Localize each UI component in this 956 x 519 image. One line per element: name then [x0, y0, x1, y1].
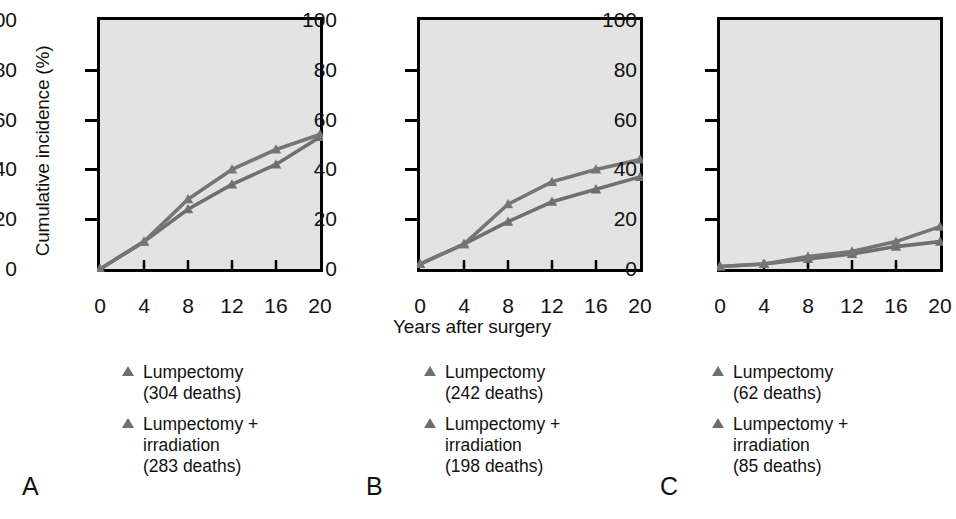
x-tick-label: 20 [300, 295, 340, 316]
y-tick-mark [705, 69, 717, 72]
panel-c: 020406080100048121620 [642, 0, 942, 300]
legend-panel-b: Lumpectomy(242 deaths)Lumpectomy +irradi… [424, 362, 654, 487]
plot-area-a: 020406080100048121620 [97, 17, 323, 272]
y-tick-label: 80 [577, 59, 637, 80]
y-tick-label: 0 [577, 258, 637, 279]
legend-entry[interactable]: Lumpectomy +irradiation(198 deaths) [424, 414, 654, 478]
y-tick-mark [85, 168, 97, 171]
y-tick-label: 100 [277, 9, 337, 30]
legend-label-line: (62 deaths) [733, 383, 942, 404]
legend-entry[interactable]: Lumpectomy(304 deaths) [122, 362, 352, 405]
plot-svg-c [717, 17, 943, 272]
legend-label-line: irradiation [445, 435, 654, 456]
panel-label-c: C [660, 472, 678, 501]
x-tick-label: 0 [700, 295, 740, 316]
legend-label-line: (304 deaths) [143, 383, 352, 404]
legend-label-line: Lumpectomy + [445, 414, 654, 435]
panel-label-b: B [366, 472, 383, 501]
x-tick-label: 0 [400, 295, 440, 316]
x-tick-label: 4 [124, 295, 164, 316]
x-tick-label: 12 [212, 295, 252, 316]
y-tick-label: 40 [577, 158, 637, 179]
y-tick-label: 100 [577, 9, 637, 30]
y-tick-mark [85, 218, 97, 221]
y-tick-label: 60 [577, 109, 637, 130]
y-tick-label: 80 [277, 59, 337, 80]
x-tick-label: 8 [488, 295, 528, 316]
plot-area-b: 020406080100048121620 [417, 17, 643, 272]
series-line [100, 135, 320, 269]
y-tick-label: 0 [277, 258, 337, 279]
y-tick-mark [705, 168, 717, 171]
legend-panel-a: Lumpectomy(304 deaths)Lumpectomy +irradi… [122, 362, 352, 487]
panel-label-a: A [22, 472, 39, 501]
x-tick-label: 8 [788, 295, 828, 316]
legend-label-line: (283 deaths) [143, 456, 352, 477]
x-tick-label: 20 [920, 295, 956, 316]
x-tick-label: 16 [256, 295, 296, 316]
plot-svg-b [417, 17, 643, 272]
legend-panel-c: Lumpectomy(62 deaths)Lumpectomy +irradia… [712, 362, 942, 487]
y-tick-label: 60 [277, 109, 337, 130]
plot-area-c: 020406080100048121620 [717, 17, 943, 272]
x-tick-label: 16 [576, 295, 616, 316]
y-tick-label: 40 [0, 158, 17, 179]
panel-a: 020406080100048121620 [22, 0, 322, 300]
x-tick-label: 16 [876, 295, 916, 316]
y-tick-label: 40 [277, 158, 337, 179]
y-tick-mark [705, 218, 717, 221]
y-tick-label: 60 [0, 109, 17, 130]
y-tick-mark [405, 218, 417, 221]
x-tick-label: 8 [168, 295, 208, 316]
legend-entry[interactable]: Lumpectomy +irradiation(85 deaths) [712, 414, 942, 478]
x-tick-label: 12 [832, 295, 872, 316]
data-point-marker [935, 221, 943, 230]
x-axis-title: Years after surgery [0, 316, 944, 338]
y-tick-mark [85, 69, 97, 72]
y-tick-mark [85, 119, 97, 122]
y-tick-mark [405, 119, 417, 122]
legend-label-line: Lumpectomy + [143, 414, 352, 435]
triangle-up-icon [424, 366, 436, 376]
triangle-up-icon [712, 418, 724, 428]
y-tick-label: 20 [0, 208, 17, 229]
legend-entry[interactable]: Lumpectomy(242 deaths) [424, 362, 654, 405]
y-tick-label: 100 [0, 9, 17, 30]
legend-entry[interactable]: Lumpectomy(62 deaths) [712, 362, 942, 405]
triangle-up-icon [122, 366, 134, 376]
legend-label-line: Lumpectomy [733, 362, 942, 383]
y-tick-label: 0 [0, 258, 17, 279]
panels-row: 020406080100048121620 020406080100048121… [0, 0, 944, 300]
legend-label-line: Lumpectomy [143, 362, 352, 383]
y-tick-mark [405, 168, 417, 171]
x-tick-label: 4 [444, 295, 484, 316]
legend-label-line: irradiation [143, 435, 352, 456]
x-tick-label: 0 [80, 295, 120, 316]
legend-label-line: (198 deaths) [445, 456, 654, 477]
y-tick-mark [705, 119, 717, 122]
y-tick-label: 20 [577, 208, 637, 229]
legend-label-line: Lumpectomy + [733, 414, 942, 435]
panel-b: 020406080100048121620 [342, 0, 642, 300]
legend-label-line: (85 deaths) [733, 456, 942, 477]
triangle-up-icon [424, 418, 436, 428]
y-tick-mark [405, 69, 417, 72]
y-tick-label: 80 [0, 59, 17, 80]
x-tick-label: 4 [744, 295, 784, 316]
triangle-up-icon [122, 418, 134, 428]
legend-label-line: Lumpectomy [445, 362, 654, 383]
data-point-marker [315, 129, 323, 138]
legend-label-line: irradiation [733, 435, 942, 456]
legend-label-line: (242 deaths) [445, 383, 654, 404]
plot-svg-a [97, 17, 323, 272]
triangle-up-icon [712, 366, 724, 376]
y-tick-label: 20 [277, 208, 337, 229]
legend-entry[interactable]: Lumpectomy +irradiation(283 deaths) [122, 414, 352, 478]
x-tick-label: 12 [532, 295, 572, 316]
